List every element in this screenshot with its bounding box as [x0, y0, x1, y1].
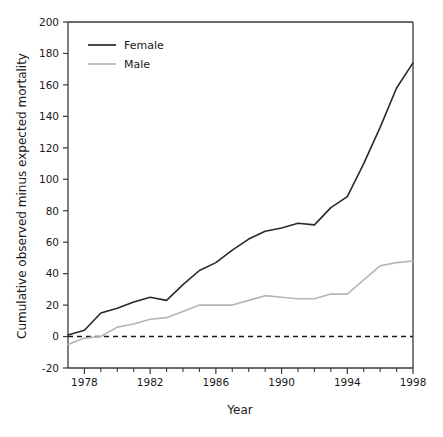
legend-label-female: Female — [124, 39, 164, 52]
y-tick-label: 140 — [39, 110, 59, 122]
y-tick-label: 40 — [46, 267, 59, 279]
data-series-group — [68, 63, 413, 345]
y-tick-label: 160 — [39, 79, 59, 91]
y-tick-label: 200 — [39, 16, 59, 28]
chart-legend: FemaleMale — [88, 39, 164, 71]
x-tick-label: 1978 — [71, 376, 98, 388]
y-tick-label: 60 — [46, 236, 59, 248]
chart-figure: -20020406080100120140160180200 197819821… — [0, 0, 443, 437]
y-tick-label: 100 — [39, 173, 59, 185]
y-tick-label: 0 — [52, 330, 59, 342]
x-tick-label: 1994 — [334, 376, 361, 388]
y-tick-label: 20 — [46, 299, 59, 311]
x-tick-label: 1982 — [137, 376, 164, 388]
x-axis-tick-labels: 197819821986199019941998 — [71, 376, 426, 388]
series-line-male — [68, 261, 413, 344]
series-line-female — [68, 63, 413, 335]
y-tick-label: -20 — [42, 362, 59, 374]
y-tick-label: 80 — [46, 205, 59, 217]
line-chart: -20020406080100120140160180200 197819821… — [0, 0, 443, 437]
x-tick-label: 1986 — [202, 376, 229, 388]
x-tick-label: 1990 — [268, 376, 295, 388]
x-axis-title: Year — [226, 403, 252, 417]
y-tick-label: 120 — [39, 142, 59, 154]
y-axis-ticks — [63, 22, 68, 368]
plot-frame — [68, 22, 413, 368]
y-axis-tick-labels: -20020406080100120140160180200 — [39, 16, 59, 374]
y-tick-label: 180 — [39, 47, 59, 59]
y-axis-title: Cumulative observed minus expected morta… — [15, 53, 29, 339]
legend-label-male: Male — [124, 58, 150, 71]
x-tick-label: 1998 — [400, 376, 427, 388]
